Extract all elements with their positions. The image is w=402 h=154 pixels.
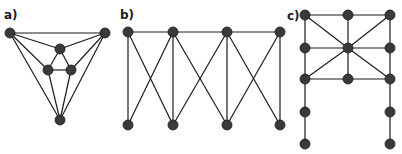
node-c10 <box>300 107 310 117</box>
panel-c-label: c) <box>287 9 300 23</box>
node-a1 <box>5 28 15 38</box>
node-b4 <box>275 27 285 37</box>
node-b1 <box>123 27 133 37</box>
node-b5 <box>123 120 133 130</box>
node-b8 <box>275 120 285 130</box>
node-b3 <box>222 27 232 37</box>
panel-a-label: a) <box>4 8 18 22</box>
panel-a: a) <box>4 8 110 125</box>
node-a3 <box>55 44 65 54</box>
node-b7 <box>222 120 232 130</box>
node-c7 <box>300 74 310 84</box>
edge-a4-a6 <box>48 70 60 120</box>
node-b2 <box>168 27 178 37</box>
node-c4 <box>300 43 310 53</box>
node-a6 <box>55 115 65 125</box>
node-c13 <box>385 139 395 149</box>
node-c2 <box>343 10 353 20</box>
node-a5 <box>66 65 76 75</box>
node-c8 <box>343 74 353 84</box>
node-c6 <box>385 43 395 53</box>
edge-c1-c5 <box>305 15 348 48</box>
edge-c9-c5 <box>348 48 390 79</box>
node-c5 <box>343 43 353 53</box>
panel-b-edges <box>128 32 280 125</box>
node-a2 <box>100 28 110 38</box>
edge-c7-c5 <box>305 48 348 79</box>
panel-b-nodes <box>123 27 285 130</box>
node-c1 <box>300 10 310 20</box>
edge-c3-c5 <box>348 15 390 48</box>
panel-c: c) <box>287 9 395 149</box>
node-b6 <box>168 120 178 130</box>
node-c12 <box>300 139 310 149</box>
panel-b: b) <box>120 8 285 130</box>
node-a4 <box>43 65 53 75</box>
node-c3 <box>385 10 395 20</box>
node-c9 <box>385 74 395 84</box>
panel-b-label: b) <box>120 8 134 22</box>
graph-diagram: a) b) c) <box>0 0 402 154</box>
edge-a5-a6 <box>60 70 71 120</box>
node-c11 <box>385 107 395 117</box>
